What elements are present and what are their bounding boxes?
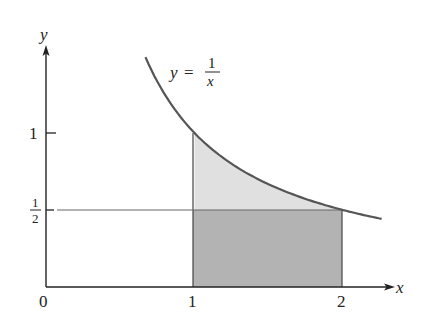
equation-lhs: y: [168, 63, 178, 82]
y-tick-label-half-denominator: 2: [32, 211, 39, 226]
equation-numerator: 1: [208, 55, 216, 71]
diagram-canvas: y x 1 1 2 0 1 2 y = 1 x: [0, 0, 436, 330]
equation-denominator: x: [206, 73, 214, 89]
area-under-hyperbola-diagram: y x 1 1 2 0 1 2 y = 1 x: [0, 0, 436, 330]
x-tick-label-2: 2: [337, 292, 346, 311]
x-tick-label-0: 0: [39, 292, 48, 311]
x-tick-label-1: 1: [188, 292, 197, 311]
light-shaded-region: [195, 133, 344, 210]
x-axis-label: x: [395, 278, 404, 297]
y-tick-label-1: 1: [29, 124, 38, 143]
y-axis-label: y: [38, 25, 48, 44]
equation-equals: =: [184, 63, 194, 82]
y-tick-label-half-numerator: 1: [32, 195, 39, 210]
dark-shaded-rectangle: [193, 210, 342, 287]
equation-label: y = 1 x: [168, 55, 220, 89]
